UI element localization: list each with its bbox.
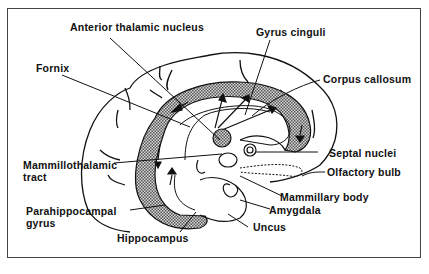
label-fornix: Fornix	[36, 63, 69, 74]
label-parahippocampal-gyrus-line1: Parahippocampal	[26, 206, 117, 217]
label-septal-nuclei: Septal nuclei	[329, 148, 396, 159]
label-amygdala: Amygdala	[269, 205, 321, 216]
label-mammillothalamic-tract-line1: Mammillothalamic	[23, 160, 117, 171]
label-olfactory-bulb: Olfactory bulb	[327, 167, 401, 178]
label-corpus-callosum: Corpus callosum	[323, 74, 411, 85]
label-gyrus-cinguli: Gyrus cinguli	[256, 27, 326, 38]
olfactory-tract	[240, 165, 302, 177]
label-hippocampus: Hippocampus	[117, 233, 189, 244]
label-mammillothalamic-tract-line2: tract	[23, 172, 47, 183]
label-parahippocampal-gyrus-line2: gyrus	[26, 218, 56, 229]
label-mammillary-body: Mammillary body	[280, 192, 369, 203]
brain-diagram	[0, 0, 429, 274]
label-anterior-thalamic-nucleus: Anterior thalamic nucleus	[70, 22, 204, 33]
label-uncus: Uncus	[253, 222, 286, 233]
